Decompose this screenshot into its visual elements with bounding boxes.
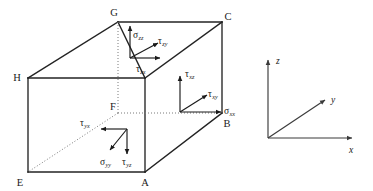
vector-tau-zy — [130, 43, 158, 58]
edge-A-B — [145, 113, 222, 172]
top-face-stress-labels: σzz τzy τzx — [133, 30, 168, 75]
label-tau-zx: τzx — [136, 64, 146, 75]
vertex-label-H: H — [13, 72, 21, 83]
cube-hidden-edges — [28, 22, 222, 172]
front-face-stress-labels: τyx σyy τyz — [80, 118, 132, 168]
vertex-label-F: F — [110, 101, 116, 112]
label-tau-yx: τyx — [80, 118, 90, 129]
axis-label-z: z — [275, 56, 280, 66]
label-tau-zy: τzy — [158, 36, 168, 47]
stress-element-diagram: G C H F B E A σzz τzy τzx — [0, 0, 373, 191]
edge-Dfront-C — [145, 22, 222, 78]
vertex-label-G: G — [110, 7, 118, 18]
axis-label-y: y — [330, 95, 336, 105]
vector-sigma-yy — [110, 129, 127, 150]
vertex-label-E: E — [17, 177, 23, 188]
vertex-label-A: A — [141, 177, 149, 188]
front-face-stress-vectors — [101, 129, 127, 154]
label-tau-yz: τyz — [122, 157, 132, 168]
coordinate-axes: z y x — [268, 56, 354, 155]
label-sigma-zz: σzz — [133, 30, 144, 41]
label-sigma-yy: σyy — [100, 157, 111, 168]
edge-G-H — [28, 22, 118, 78]
axis-y-line — [268, 100, 325, 138]
label-sigma-xx: σxx — [224, 106, 235, 117]
label-tau-xy: τxy — [208, 89, 218, 100]
vertex-label-C: C — [224, 11, 231, 22]
label-tau-xz: τxz — [185, 69, 195, 80]
figure-canvas: G C H F B E A σzz τzy τzx — [0, 0, 373, 191]
vertex-label-B: B — [223, 118, 230, 129]
vector-tau-xy — [180, 95, 207, 112]
right-face-stress-labels: τxz τxy σxx — [185, 69, 235, 117]
cube-solid-edges — [28, 22, 222, 172]
axis-label-x: x — [348, 145, 354, 155]
